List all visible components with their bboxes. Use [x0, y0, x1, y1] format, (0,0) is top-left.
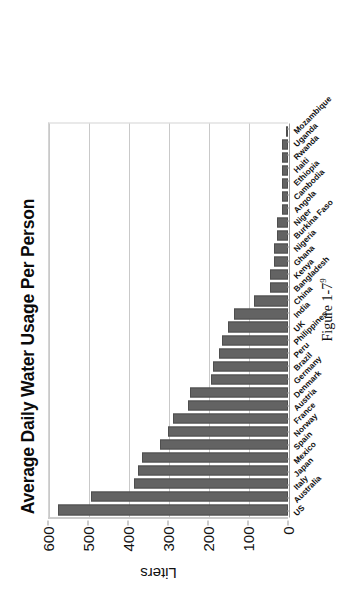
- category-axis-tick-mark: [287, 431, 290, 432]
- category-axis-tick-mark: [287, 392, 290, 393]
- figure-caption-text: Figure 1-7: [320, 282, 335, 341]
- bar-slot: [49, 464, 288, 477]
- value-axis-tick-label: 300: [160, 526, 177, 551]
- category-axis-tick-mark: [287, 128, 290, 129]
- bar-slot: [49, 281, 288, 294]
- bar-slot: [49, 412, 288, 425]
- value-axis-tick-label: 0: [280, 526, 297, 534]
- bar: [134, 478, 288, 488]
- category-axis-tick-mark: [287, 141, 290, 142]
- bar-slot: [49, 359, 288, 372]
- bar: [282, 139, 288, 149]
- value-axis-tick-label: 100: [240, 526, 257, 551]
- category-slot: Brazil: [290, 360, 360, 373]
- category-axis-tick-mark: [287, 326, 290, 327]
- bar: [168, 426, 288, 436]
- bar: [222, 335, 288, 345]
- value-axis-label: Liters: [89, 565, 229, 582]
- category-slot: Ghana: [290, 254, 360, 267]
- figure-caption-superscript: 9: [318, 278, 328, 283]
- category-slot: Niger: [290, 214, 360, 227]
- bar: [142, 452, 288, 462]
- page-title: Average Daily Water Usage Per Person: [18, 121, 39, 591]
- bar: [274, 256, 288, 266]
- bar-slot: [49, 385, 288, 398]
- bar-slot: [49, 242, 288, 255]
- value-axis-tick-label: 400: [120, 526, 137, 551]
- bar: [282, 191, 288, 201]
- bar-slot: [49, 490, 288, 503]
- bar-slot: [49, 189, 288, 202]
- bar-slot: [49, 229, 288, 242]
- value-axis-tick-mark: [248, 520, 249, 525]
- bar-slot: [49, 372, 288, 385]
- category-slot: Denmark: [290, 386, 360, 399]
- category-slot: Uganda: [290, 135, 360, 148]
- bar: [188, 400, 288, 410]
- bar: [190, 387, 288, 397]
- category-slot: Mozambique: [290, 122, 360, 135]
- category-axis-tick-mark: [287, 299, 290, 300]
- bar: [254, 295, 288, 305]
- bar-slot: [49, 124, 288, 137]
- category-slot: Japan: [290, 465, 360, 478]
- bar-slot: [49, 438, 288, 451]
- category-axis-tick-mark: [287, 273, 290, 274]
- bar: [282, 204, 288, 214]
- bar-slot: [49, 216, 288, 229]
- category-slot: Norway: [290, 426, 360, 439]
- category-axis-tick-mark: [287, 207, 290, 208]
- bar-slot: [49, 203, 288, 216]
- figure-rotation-wrapper: Average Daily Water Usage Per Person 600…: [0, 0, 360, 591]
- bar: [219, 348, 288, 358]
- category-slot: Haiti: [290, 162, 360, 175]
- bar: [282, 165, 288, 175]
- bar: [277, 230, 288, 240]
- bar-slot: [49, 320, 288, 333]
- category-axis-tick-mark: [287, 167, 290, 168]
- bar-slot: [49, 176, 288, 189]
- category-axis-tick-mark: [287, 418, 290, 419]
- category-axis-tick-mark: [287, 339, 290, 340]
- bar: [282, 178, 288, 188]
- bar: [234, 308, 288, 318]
- bar: [213, 361, 288, 371]
- category-axis-tick-mark: [287, 365, 290, 366]
- category-axis-tick-mark: [287, 444, 290, 445]
- category-slot: Spain: [290, 439, 360, 452]
- category-axis-tick-mark: [287, 497, 290, 498]
- category-axis-tick-mark: [287, 246, 290, 247]
- category-axis-tick-mark: [287, 378, 290, 379]
- bar-slot: [49, 503, 288, 516]
- category-slot: Burkina Faso: [290, 228, 360, 241]
- bar-series: [49, 123, 288, 517]
- value-axis-tick-mark: [288, 520, 289, 525]
- category-slot: Italy: [290, 478, 360, 491]
- bar: [277, 217, 288, 227]
- bar-slot: [49, 477, 288, 490]
- bar-slot: [49, 294, 288, 307]
- category-slot: Austria: [290, 399, 360, 412]
- bar-slot: [49, 346, 288, 359]
- bar-slot: [49, 255, 288, 268]
- bar-slot: [49, 268, 288, 281]
- category-axis-tick-mark: [287, 458, 290, 459]
- category-axis-tick-mark: [287, 405, 290, 406]
- category-axis-tick-mark: [287, 194, 290, 195]
- category-slot: Nigeria: [290, 241, 360, 254]
- bar-slot: [49, 137, 288, 150]
- bar: [270, 282, 288, 292]
- category-axis-tick-mark: [287, 180, 290, 181]
- category-axis-tick-mark: [287, 471, 290, 472]
- figure-caption: Figure 1-79: [318, 278, 336, 341]
- category-slot: US: [290, 505, 360, 518]
- bar: [160, 439, 288, 449]
- category-slot: Rwanda: [290, 148, 360, 161]
- bar: [274, 243, 288, 253]
- bar-slot: [49, 398, 288, 411]
- bar-slot: [49, 307, 288, 320]
- bar: [58, 504, 288, 514]
- bar-slot: [49, 425, 288, 438]
- value-axis-tick-mark: [128, 520, 129, 525]
- category-axis-tick-label: US: [292, 503, 306, 517]
